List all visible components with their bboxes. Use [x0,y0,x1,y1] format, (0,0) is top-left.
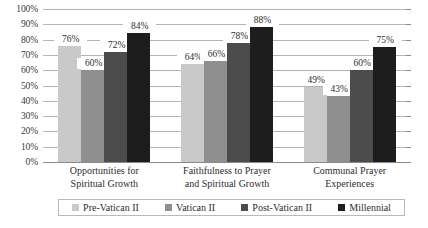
x-axis-category-line: Communal Prayer [288,165,411,178]
x-axis-category-line: Faithfulness to Prayer [166,165,289,178]
bar [127,33,150,162]
legend-swatch-icon [72,204,79,211]
bar [350,70,373,162]
bars-layer: 76%60%72%84%64%66%78%88%49%43%60%75% [43,9,411,162]
bar [181,64,204,162]
y-axis-tick-label: 30% [0,111,38,121]
y-axis-tick-label: 20% [0,126,38,136]
chart-legend: Pre-Vatican IIVatican IIPost-Vatican IIM… [58,199,405,216]
bar [250,27,273,162]
bar [104,52,127,162]
y-axis: 100%90%80%70%60%50%40%30%20%10%0% [0,0,38,171]
legend-item-label: Pre-Vatican II [83,202,139,214]
bar-value-label: 75% [369,35,402,46]
bar [227,43,250,162]
legend-swatch-icon [165,204,172,211]
y-axis-tick-label: 60% [0,65,38,75]
bar-value-label: 84% [123,21,156,32]
x-axis-category-label: Faithfulness to Prayerand Spiritual Grow… [166,165,289,190]
x-axis-category-label: Opportunities forSpiritual Growth [43,165,166,190]
bar [373,47,396,162]
y-axis-tick-label: 50% [0,81,38,91]
y-axis-tick-label: 10% [0,142,38,152]
x-axis-category-line: Experiences [288,178,411,191]
y-axis-tick-label: 0% [0,157,38,167]
bar [304,87,327,162]
bar-chart: 100%90%80%70%60%50%40%30%20%10%0% 76%60%… [0,0,428,228]
legend-item[interactable]: Millennial [338,202,391,214]
x-axis: Opportunities forSpiritual GrowthFaithfu… [43,165,411,195]
bar-value-label: 76% [54,34,87,45]
legend-item-label: Vatican II [176,202,215,214]
legend-swatch-icon [338,204,345,211]
legend-item[interactable]: Vatican II [165,202,215,214]
bar-value-label: 88% [246,15,279,26]
y-axis-tick-label: 80% [0,35,38,45]
x-axis-category-line: and Spiritual Growth [166,178,289,191]
y-axis-tick-label: 100% [0,4,38,14]
axis-baseline [43,162,411,163]
legend-item-label: Post-Vatican II [252,202,312,214]
legend-item[interactable]: Pre-Vatican II [72,202,139,214]
x-axis-category-label: Communal PrayerExperiences [288,165,411,190]
y-axis-tick-label: 70% [0,50,38,60]
x-axis-category-line: Spiritual Growth [43,178,166,191]
bar [81,70,104,162]
y-axis-tick-label: 90% [0,19,38,29]
legend-item-label: Millennial [349,202,391,214]
y-tick-mark [406,162,411,163]
y-axis-tick-label: 40% [0,96,38,106]
legend-item[interactable]: Post-Vatican II [241,202,312,214]
x-axis-category-line: Opportunities for [43,165,166,178]
bar [204,61,227,162]
bar [327,96,350,162]
legend-swatch-icon [241,204,248,211]
